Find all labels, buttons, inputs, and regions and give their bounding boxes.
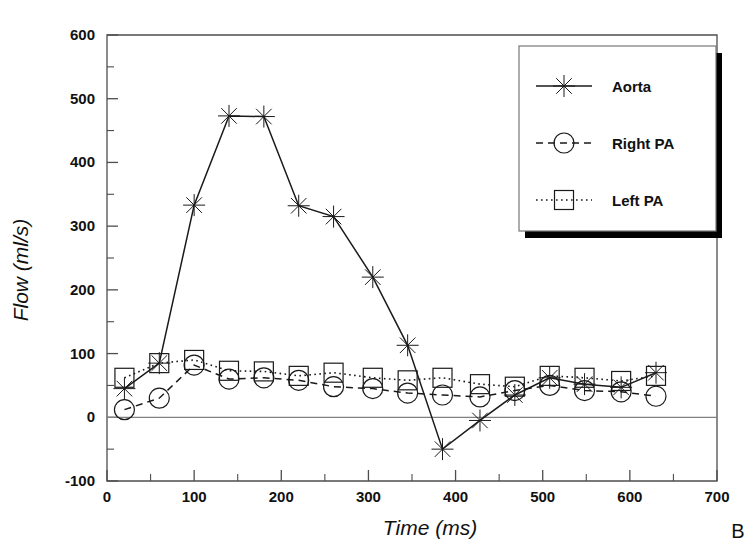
data-point-asterisk [553,75,575,97]
flow-vs-time-chart: 0100200300400500600700 -1000100200300400… [0,0,751,544]
y-axis-title: Flow (ml/s) [9,219,32,322]
data-point-asterisk [288,195,310,217]
data-point-asterisk [323,206,345,228]
y-tick-label: 300 [70,217,95,234]
x-tick-label: 300 [356,488,381,505]
data-point-asterisk [504,384,526,406]
x-tick-label: 200 [269,488,294,505]
x-tick-label: 500 [530,488,555,505]
data-point-asterisk [362,266,384,288]
y-tick-label: -100 [65,472,95,489]
x-tick-label: 100 [182,488,207,505]
y-tick-label: 0 [87,408,95,425]
y-tick-label: 200 [70,281,95,298]
y-tick-label: 100 [70,345,95,362]
y-tick-label: 400 [70,153,95,170]
legend-label: Aorta [612,78,652,95]
data-point-asterisk [610,376,632,398]
y-tick-label: 600 [70,26,95,43]
x-tick-label: 600 [617,488,642,505]
data-point-asterisk [218,105,240,127]
x-tick-label: 400 [443,488,468,505]
x-tick-label: 700 [704,488,729,505]
x-axis-title: Time (ms) [383,516,477,539]
panel-label: B [731,520,744,542]
legend-label: Left PA [612,192,664,209]
x-tick-label: 0 [103,488,111,505]
chart-legend: AortaRight PALeft PA [519,46,722,238]
data-point-asterisk [645,362,667,384]
legend-label: Right PA [612,135,674,152]
data-point-asterisk [253,106,275,128]
y-tick-label: 500 [70,90,95,107]
data-point-asterisk [397,334,419,356]
data-point-asterisk [469,409,491,431]
data-point-asterisk [183,194,205,216]
data-point-asterisk [432,438,454,460]
data-point-asterisk [113,378,135,400]
